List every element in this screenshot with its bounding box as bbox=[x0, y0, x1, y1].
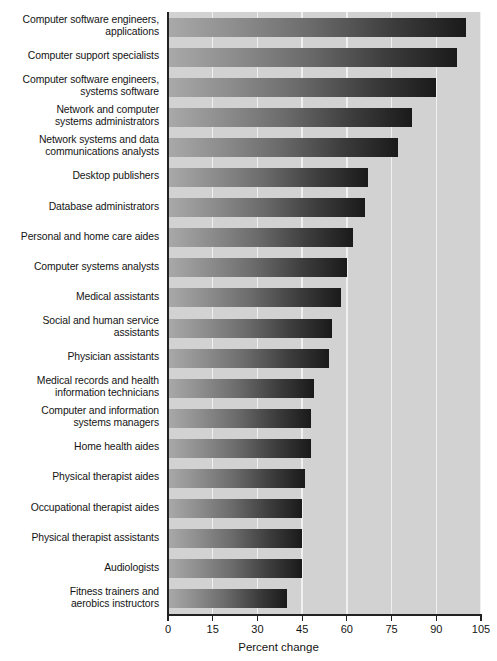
category-label: Network and computersystems administrato… bbox=[0, 104, 164, 128]
bar-chart: Computer software engineers,applications… bbox=[0, 0, 497, 661]
category-label-line: Medical records and health bbox=[0, 375, 159, 387]
category-label-line: assistants bbox=[0, 327, 159, 339]
category-label: Computer support specialists bbox=[0, 50, 164, 62]
x-tick-mark bbox=[391, 615, 392, 621]
plot-area bbox=[168, 12, 481, 614]
category-label-line: systems managers bbox=[0, 417, 159, 429]
category-label: Physical therapist assistants bbox=[0, 532, 164, 544]
bar bbox=[168, 288, 341, 307]
x-tick-label: 60 bbox=[341, 623, 353, 635]
category-label-line: Personal and home care aides bbox=[0, 231, 159, 243]
gridline-105 bbox=[480, 12, 481, 614]
bar bbox=[168, 48, 457, 67]
category-label: Social and human serviceassistants bbox=[0, 315, 164, 339]
x-tick-label: 30 bbox=[251, 623, 263, 635]
category-label-line: Computer support specialists bbox=[0, 50, 159, 62]
category-label-line: Social and human service bbox=[0, 315, 159, 327]
category-label-line: aerobics instructors bbox=[0, 598, 159, 610]
gridline-60 bbox=[346, 12, 348, 614]
category-label-line: Home health aides bbox=[0, 441, 159, 453]
category-axis: Computer software engineers,applications… bbox=[0, 12, 164, 614]
gridline-90 bbox=[436, 12, 438, 614]
category-label: Physician assistants bbox=[0, 351, 164, 363]
category-label: Network systems and datacommunications a… bbox=[0, 134, 164, 158]
x-tick-label: 15 bbox=[207, 623, 219, 635]
bar bbox=[168, 138, 398, 157]
x-tick-mark bbox=[436, 615, 437, 621]
category-label: Home health aides bbox=[0, 441, 164, 453]
bar bbox=[168, 18, 466, 37]
category-label-line: Network systems and data bbox=[0, 134, 159, 146]
x-tick-label: 45 bbox=[296, 623, 308, 635]
category-label: Computer systems analysts bbox=[0, 261, 164, 273]
bar bbox=[168, 349, 329, 368]
category-label-line: Medical assistants bbox=[0, 291, 159, 303]
category-label-line: Occupational therapist aides bbox=[0, 502, 159, 514]
category-label-line: Desktop publishers bbox=[0, 170, 159, 182]
y-axis-line bbox=[167, 12, 169, 615]
gridline-30 bbox=[257, 12, 259, 614]
category-label-line: Computer and information bbox=[0, 405, 159, 417]
x-tick-mark bbox=[302, 615, 303, 621]
category-label: Audiologists bbox=[0, 562, 164, 574]
category-label-line: systems software bbox=[0, 86, 159, 98]
category-label: Computer and informationsystems managers bbox=[0, 405, 164, 429]
bar bbox=[168, 529, 302, 548]
category-label-line: Network and computer bbox=[0, 104, 159, 116]
bar bbox=[168, 499, 302, 518]
bar bbox=[168, 168, 368, 187]
category-label: Computer software engineers,systems soft… bbox=[0, 74, 164, 98]
category-label: Physical therapist aides bbox=[0, 471, 164, 483]
category-label: Desktop publishers bbox=[0, 170, 164, 182]
x-tick-mark bbox=[167, 615, 168, 621]
bar bbox=[168, 108, 412, 127]
gridline-75 bbox=[391, 12, 393, 614]
category-label: Medical assistants bbox=[0, 291, 164, 303]
category-label-line: applications bbox=[0, 26, 159, 38]
x-tick-label: 0 bbox=[165, 623, 171, 635]
category-label: Computer software engineers,applications bbox=[0, 14, 164, 38]
category-label-line: Fitness trainers and bbox=[0, 586, 159, 598]
category-label: Occupational therapist aides bbox=[0, 502, 164, 514]
category-label: Database administrators bbox=[0, 201, 164, 213]
gridline-45 bbox=[301, 12, 303, 614]
bar bbox=[168, 258, 347, 277]
category-label-line: Physical therapist assistants bbox=[0, 532, 159, 544]
category-label-line: Audiologists bbox=[0, 562, 159, 574]
category-label-line: Physical therapist aides bbox=[0, 471, 159, 483]
x-tick-mark bbox=[346, 615, 347, 621]
category-label: Medical records and healthinformation te… bbox=[0, 375, 164, 399]
x-tick-mark bbox=[257, 615, 258, 621]
bar bbox=[168, 319, 332, 338]
category-label: Personal and home care aides bbox=[0, 231, 164, 243]
bar bbox=[168, 78, 436, 97]
bar bbox=[168, 439, 311, 458]
bar bbox=[168, 589, 287, 608]
category-label-line: communications analysts bbox=[0, 146, 159, 158]
category-label-line: information technicians bbox=[0, 387, 159, 399]
category-label-line: Computer systems analysts bbox=[0, 261, 159, 273]
category-label: Fitness trainers andaerobics instructors bbox=[0, 586, 164, 610]
bar bbox=[168, 228, 353, 247]
category-label-line: Computer software engineers, bbox=[0, 14, 159, 26]
x-tick-label: 75 bbox=[385, 623, 397, 635]
x-tick-label: 105 bbox=[472, 623, 490, 635]
bar bbox=[168, 559, 302, 578]
x-tick-label: 90 bbox=[430, 623, 442, 635]
category-label-line: Database administrators bbox=[0, 201, 159, 213]
category-label-line: Physician assistants bbox=[0, 351, 159, 363]
bar bbox=[168, 409, 311, 428]
bar bbox=[168, 379, 314, 398]
x-tick-mark bbox=[212, 615, 213, 621]
x-axis-title: Percent change bbox=[0, 641, 497, 653]
bar bbox=[168, 198, 365, 217]
x-tick-mark bbox=[480, 615, 481, 621]
bar bbox=[168, 469, 305, 488]
gridline-15 bbox=[212, 12, 214, 614]
category-label-line: systems administrators bbox=[0, 116, 159, 128]
category-label-line: Computer software engineers, bbox=[0, 74, 159, 86]
